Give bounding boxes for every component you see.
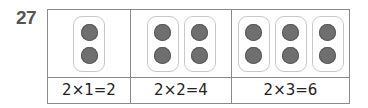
dot-group <box>238 16 270 72</box>
dot <box>191 47 208 64</box>
problem-number: 27 <box>16 7 36 29</box>
dot-group <box>184 16 216 72</box>
dot-groups <box>48 10 130 78</box>
dot <box>282 47 299 64</box>
dot-group <box>312 16 344 72</box>
dot <box>81 24 98 41</box>
column-2: 2×2=4 <box>130 10 231 103</box>
dot <box>81 47 98 64</box>
dot-group <box>147 16 179 72</box>
dot <box>154 24 171 41</box>
dot-group <box>275 16 307 72</box>
dot-groups <box>232 10 349 78</box>
dot <box>191 24 208 41</box>
equation: 2×1=2 <box>48 77 130 103</box>
equation: 2×2=4 <box>131 77 231 103</box>
dot <box>319 24 336 41</box>
dot <box>154 47 171 64</box>
dot-groups <box>131 10 231 78</box>
multiplication-table: 2×1=2 2×2=4 <box>47 9 350 104</box>
column-1: 2×1=2 <box>48 10 130 103</box>
equation: 2×3=6 <box>232 77 349 103</box>
dot <box>319 47 336 64</box>
dot <box>245 47 262 64</box>
column-3: 2×3=6 <box>231 10 349 103</box>
dot <box>282 24 299 41</box>
dot-group <box>73 16 105 72</box>
dot <box>245 24 262 41</box>
